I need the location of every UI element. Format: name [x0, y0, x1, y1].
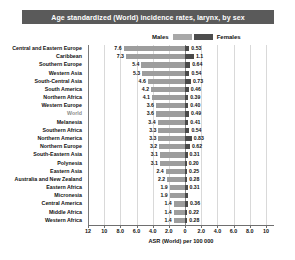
bar-male	[160, 161, 185, 166]
x-tick-label: 10	[263, 228, 269, 234]
plot-area: 7.60.537.31.15.40.645.30.544.60.734.20.4…	[88, 45, 274, 225]
bar-female	[185, 111, 189, 116]
bar-female	[185, 161, 187, 166]
x-tick-label: 8.0	[246, 228, 254, 234]
legend-swatch-males	[173, 34, 192, 40]
table-row: 5.30.54	[88, 70, 274, 77]
bar-male	[160, 152, 185, 157]
x-tick-label: 4.0	[149, 228, 157, 234]
bar-male	[156, 111, 185, 116]
bar-value-female: 0.64	[192, 61, 202, 68]
bar-male	[174, 201, 185, 206]
bar-value-male: 3.1	[138, 160, 158, 167]
bar-female	[185, 152, 188, 157]
category-label: Central and Eastern Europe	[12, 45, 82, 52]
bar-value-female: 0.31	[190, 184, 200, 191]
bar-female	[185, 95, 188, 100]
bar-female	[185, 103, 188, 108]
bar-male	[126, 54, 185, 59]
category-label: Northern Europe	[40, 143, 82, 150]
bar-value-female: 0.49	[191, 110, 201, 117]
category-label: Caribbean	[56, 53, 82, 60]
table-row: 2.40.25	[88, 168, 274, 175]
category-label: Micronesia	[54, 192, 82, 199]
bar-value-female: 0.36	[190, 200, 200, 207]
table-row: 3.60.40	[88, 102, 274, 109]
bar-value-female: 0.31	[190, 151, 200, 158]
table-row: 7.60.53	[88, 45, 274, 52]
chart-legend: Males Females	[150, 34, 243, 40]
bar-value-male: 4.1	[130, 94, 150, 101]
bar-female	[185, 185, 188, 190]
x-tick-label: 4.0	[214, 228, 222, 234]
bar-value-male: 3.6	[134, 110, 154, 117]
bar-female	[185, 46, 189, 51]
bar-male	[170, 185, 185, 190]
legend-label-males: Males	[150, 34, 171, 40]
bar-value-female: 0.62	[192, 143, 202, 150]
x-tick-label: 6.0	[230, 228, 238, 234]
bar-female	[185, 71, 189, 76]
bar-value-male: 4.2	[129, 86, 149, 93]
bar-female	[185, 136, 192, 141]
table-row: 3.30.54	[88, 127, 274, 134]
bar-value-male: 3.6	[134, 102, 154, 109]
table-row: 3.10.20	[88, 160, 274, 167]
table-row: 2.20.28	[88, 176, 274, 183]
x-tick-label: 2.0	[197, 228, 205, 234]
bar-female	[185, 128, 189, 133]
bar-value-male: 1.9	[148, 184, 168, 191]
bar-value-male: 7.3	[104, 53, 124, 60]
category-axis-labels: Central and Eastern EuropeCaribbeanSouth…	[0, 45, 85, 225]
category-label: Western Africa	[45, 217, 82, 224]
x-tick-label: 6.0	[133, 228, 141, 234]
bar-male	[152, 95, 185, 100]
table-row: 1.90.31	[88, 184, 274, 191]
bar-value-female: 0.83	[194, 135, 204, 142]
x-tick-label: 10	[101, 228, 107, 234]
bar-male	[141, 62, 185, 67]
x-axis-label: ASR (World) per 100 000	[88, 238, 274, 244]
table-row: 3.30.83	[88, 135, 274, 142]
bar-value-male: 3.4	[136, 119, 156, 126]
bar-value-female: 1.1	[196, 53, 203, 60]
bar-value-male: 3.2	[137, 143, 157, 150]
page-title: Age standardized (World) incidence rates…	[51, 14, 244, 21]
bar-male	[159, 144, 185, 149]
bar-female	[185, 144, 190, 149]
bar-female	[185, 62, 190, 67]
category-label: Western Asia	[49, 70, 82, 77]
bar-value-female: 0.28	[189, 217, 199, 224]
bar-value-male: 5.4	[119, 61, 139, 68]
table-row: 3.20.62	[88, 143, 274, 150]
table-row: 4.10.39	[88, 94, 274, 101]
table-row: 7.31.1	[88, 53, 274, 60]
bar-value-female: 0.39	[190, 94, 200, 101]
bar-value-male: 1.4	[152, 200, 172, 207]
bar-female	[185, 177, 187, 182]
category-label: South America	[45, 86, 82, 93]
table-row: 1.40.22	[88, 209, 274, 216]
bar-value-female: 0.54	[191, 127, 201, 134]
bar-value-female: 0.46	[191, 86, 201, 93]
category-label: Australia and New Zealand	[15, 176, 82, 183]
bar-male	[174, 218, 185, 223]
bar-female	[185, 218, 187, 223]
category-label: Middle Africa	[49, 209, 82, 216]
bar-value-female: 0.28	[189, 176, 199, 183]
bar-value-male: 5.3	[120, 70, 140, 77]
category-label: South-Central Asia	[35, 78, 82, 85]
table-row: 4.60.73	[88, 78, 274, 85]
x-tick-label: 2.0	[165, 228, 173, 234]
bar-value-female: 0.41	[190, 119, 200, 126]
bar-male	[170, 193, 185, 198]
table-row: 1.9	[88, 192, 274, 199]
bar-male	[151, 87, 185, 92]
bar-value-male: 2.2	[145, 176, 165, 183]
bar-male	[148, 79, 185, 84]
bar-value-male: 1.4	[152, 217, 172, 224]
bar-male	[158, 128, 185, 133]
category-label: Southern Africa	[42, 127, 82, 134]
category-label: Melanesia	[57, 119, 82, 126]
bar-value-male: 2.4	[144, 168, 164, 175]
